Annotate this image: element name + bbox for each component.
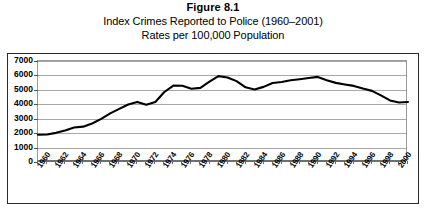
y-axis-tick-label: 5000 xyxy=(0,85,33,93)
y-axis-tick-label: 3000 xyxy=(0,114,33,122)
figure-container: Figure 8.1 Index Crimes Reported to Poli… xyxy=(0,0,426,212)
y-axis-tick-label: 4000 xyxy=(0,99,33,107)
figure-title-line1: Index Crimes Reported to Police (1960–20… xyxy=(0,14,426,28)
y-axis-tick-label: 1000 xyxy=(0,143,33,151)
x-axis-labels: 1960196219641966196819701972197419761978… xyxy=(0,163,426,203)
plot-area xyxy=(37,60,407,161)
y-axis-tick-label: 6000 xyxy=(0,70,33,78)
figure-titles: Figure 8.1 Index Crimes Reported to Poli… xyxy=(0,0,426,42)
y-axis-tick-label: 2000 xyxy=(0,128,33,136)
figure-number-label: Figure 8.1 xyxy=(0,1,426,14)
figure-title-line2: Rates per 100,000 Population xyxy=(0,28,426,42)
y-axis-tick-label: 7000 xyxy=(0,56,33,64)
crime-rate-line xyxy=(38,61,408,162)
